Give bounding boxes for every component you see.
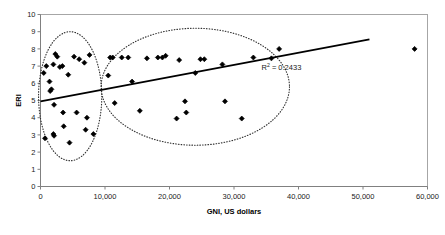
- y-tick-label: 1: [31, 165, 35, 174]
- y-tick-label: 5: [31, 96, 35, 105]
- x-tick-label: 40,000: [287, 192, 310, 201]
- y-tick-label: 3: [31, 131, 35, 140]
- y-tick-label: 4: [31, 113, 35, 122]
- x-axis-tick-labels: 010,00020,00030,00040,00050,00060,000: [38, 192, 439, 201]
- x-tick-label: 10,000: [94, 192, 117, 201]
- y-tick-label: 0: [31, 182, 35, 191]
- x-tick-label: 30,000: [223, 192, 246, 201]
- y-tick-label: 8: [31, 45, 35, 54]
- y-tick-label: 2: [31, 148, 35, 157]
- x-tick-label: 60,000: [416, 192, 439, 201]
- x-axis-title: GNI, US dollars: [207, 207, 262, 216]
- y-axis-tick-labels: 012345678910: [27, 10, 35, 191]
- scatter-chart: 012345678910 010,00020,00030,00040,00050…: [0, 0, 445, 235]
- x-tick-label: 20,000: [158, 192, 181, 201]
- y-tick-label: 9: [31, 27, 35, 36]
- y-tick-label: 10: [27, 10, 35, 19]
- y-tick-label: 6: [31, 79, 35, 88]
- y-tick-label: 7: [31, 62, 35, 71]
- x-tick-label: 0: [38, 192, 42, 201]
- x-tick-label: 50,000: [352, 192, 375, 201]
- y-axis-title: ERI: [14, 94, 23, 107]
- chart-canvas: 012345678910 010,00020,00030,00040,00050…: [0, 0, 445, 235]
